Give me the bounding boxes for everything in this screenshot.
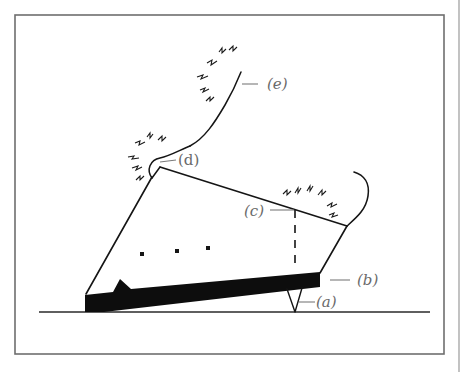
corner-joint [152,167,160,178]
housing-right-side [320,226,347,273]
label-a: (a) [316,293,337,311]
base-bar [85,272,320,312]
diagram-canvas: (e) (d) (c) (b) (a) [0,0,465,372]
label-c: (c) [244,202,264,220]
label-d: (d) [178,151,199,169]
spark-cluster-d [128,133,166,180]
pivot-support [287,288,302,312]
interior-dot [140,252,144,256]
label-b: (b) [357,271,378,289]
figure-frame [15,15,444,354]
right-hook [347,172,368,226]
spark-cluster-c [283,186,338,217]
leader-d [160,160,176,162]
interior-dot [175,249,179,253]
housing-left-side [86,177,152,294]
cable [190,72,241,146]
label-e: (e) [267,75,288,93]
interior-dot [206,246,210,250]
